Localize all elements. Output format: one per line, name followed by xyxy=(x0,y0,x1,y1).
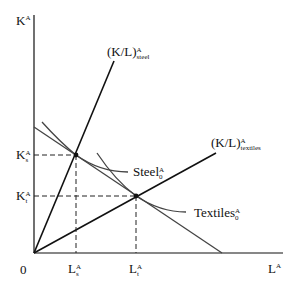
steel-isoquant-label: SteelA0 xyxy=(133,165,164,181)
textiles-tangency-point xyxy=(134,194,139,199)
l-textiles-label: LAt xyxy=(129,262,142,278)
y-axis-label-sup: A xyxy=(25,14,30,22)
y-axis-label-base: K xyxy=(16,13,25,28)
textiles-isoquant-label-sub: 0 xyxy=(235,215,240,222)
steel-ray-label-sub: steel xyxy=(137,54,150,61)
origin-label: 0 xyxy=(20,263,27,276)
l-steel-label-sub: s xyxy=(76,271,81,278)
textiles-ray-label: (K/L)Atextiles xyxy=(211,136,261,152)
k-textiles-label-base: K xyxy=(16,188,25,203)
textiles-ray-label-base: (K/L) xyxy=(211,135,241,150)
steel-ray xyxy=(34,61,114,253)
textiles-isoquant xyxy=(97,153,186,212)
steel-isoquant-label-sub: 0 xyxy=(159,174,164,181)
x-axis-label: LA xyxy=(268,262,281,275)
k-textiles-label-sub: t xyxy=(25,198,30,205)
textiles-ray-label-sub: textiles xyxy=(241,145,261,152)
x-axis-label-base: L xyxy=(268,261,276,276)
textiles-ray xyxy=(34,153,216,253)
k-steel-label-sub: s xyxy=(25,157,30,164)
l-steel-label-base: L xyxy=(68,261,76,276)
steel-tangency-point xyxy=(74,153,79,158)
y-axis-label: KA xyxy=(16,14,30,27)
textiles-isoquant-label: TextilesA0 xyxy=(194,206,240,222)
k-steel-label-base: K xyxy=(16,147,25,162)
l-textiles-label-base: L xyxy=(129,261,137,276)
l-steel-label: LAs xyxy=(68,262,81,278)
steel-ray-label: (K/L)Asteel xyxy=(107,45,149,61)
k-steel-label: KAs xyxy=(16,148,30,164)
l-textiles-label-sub: t xyxy=(137,271,142,278)
steel-ray-label-base: (K/L) xyxy=(107,44,137,59)
steel-isoquant-label-base: Steel xyxy=(133,164,159,179)
textiles-isoquant-label-base: Textiles xyxy=(194,205,235,220)
k-textiles-label: KAt xyxy=(16,189,30,205)
x-axis-label-sup: A xyxy=(276,262,281,270)
